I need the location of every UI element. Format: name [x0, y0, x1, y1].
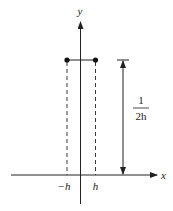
- x-axis-label: x: [160, 169, 166, 181]
- tick-label-h: h: [93, 180, 99, 192]
- fraction-denominator: 2h: [136, 110, 148, 122]
- pulse-graph: 1 2h y x −h h: [0, 0, 173, 211]
- tick-label-minus-h: −h: [58, 180, 71, 192]
- fraction-denominator-text: 2h: [136, 110, 148, 122]
- endpoint-dot-right: [93, 57, 98, 62]
- endpoint-dot-left: [64, 57, 69, 62]
- diagram-canvas: 1 2h y x −h h: [0, 0, 173, 211]
- y-axis-label: y: [77, 5, 83, 17]
- fraction-numerator: 1: [138, 94, 144, 106]
